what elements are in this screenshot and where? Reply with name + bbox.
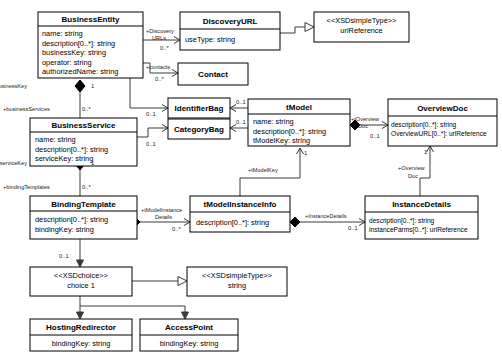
class-box-discovery-url[interactable]: DiscoveryURL useType: string	[180, 12, 280, 50]
class-attr: serviceKey: string	[35, 154, 93, 163]
class-box-url-reference[interactable]: <<XSDsimpleType>> urlReference	[314, 12, 409, 42]
class-box-category-bag[interactable]: CategoryBag	[168, 119, 230, 139]
edge-mult-service-key: 1	[91, 160, 94, 166]
class-box-business-entity[interactable]: BusinessEntity name: string description[…	[38, 12, 143, 78]
edge-be-composition-businessservice	[75, 80, 85, 118]
edge-be-identifierbag	[130, 78, 168, 112]
class-attr: bindingKey: string	[35, 225, 94, 234]
class-box-tmodel[interactable]: tModel name: string description[0..*]: s…	[248, 99, 350, 146]
edge-choice-accesspoint	[80, 306, 189, 319]
edge-mult-overview-doc: 1	[424, 149, 427, 155]
edge-mult-tm-categorybag: 0..1	[236, 119, 246, 125]
edge-tm-identifierbag	[230, 105, 248, 112]
class-title-discovery-url: DiscoveryURL	[203, 17, 258, 26]
edge-mult-bs-categorybag: 0..1	[146, 141, 156, 147]
class-attr: tModelKey: string	[253, 136, 310, 145]
edge-tm-categorybag	[230, 125, 248, 132]
class-title-url-reference: urlReference	[340, 26, 382, 35]
class-attr: description[0..*]: string	[253, 127, 326, 136]
class-title-hosting-redirector: HostingRedirector	[46, 323, 116, 332]
class-title-overview-doc: OverviewDoc	[417, 104, 468, 113]
edge-mult-discovery-urls: 0..*	[160, 45, 169, 51]
class-stereotype-xsd-choice: <<XSDchoice>>	[54, 271, 108, 280]
class-attr: businessKey: string	[42, 48, 106, 57]
class-title-business-service: BusinessService	[51, 121, 116, 130]
class-box-access-point[interactable]: AccessPoint bindingKey: string	[140, 319, 238, 351]
class-attr: description[0..*]: string	[35, 215, 108, 224]
edge-role-tmodel-key: +tModelKey	[248, 167, 278, 173]
class-attr: description[0..*]: string	[42, 39, 115, 48]
edge-mult-tmodel-key: 1	[304, 150, 307, 156]
edge-bindingtemplate-choice	[77, 239, 84, 267]
edge-choice-hostingredirector	[77, 296, 84, 319]
edge-mult-business-services: 0..*	[82, 106, 91, 112]
class-attr: authorizedName: string	[42, 67, 118, 76]
class-attr: name: string	[253, 117, 294, 126]
edge-mult-be-identifierbag: 0..1	[146, 111, 156, 117]
class-title-contact: Contact	[198, 70, 228, 79]
edge-role-discovery-urls-2: URLs	[152, 35, 166, 41]
class-title-business-entity: BusinessEntity	[62, 15, 120, 24]
edge-role-binding-templates: +bindingTemplates	[3, 184, 50, 190]
class-box-xsd-string[interactable]: <<XSDsimpleType>> string	[187, 267, 287, 296]
edge-mult-bt-choice: 0..1	[59, 253, 69, 259]
edge-mult-tm-identifierbag: 0..1	[236, 99, 246, 105]
edge-role-overview-doc: +Overview	[398, 165, 426, 171]
edge-mult-tmodel-instance-details: 0..*	[172, 226, 181, 232]
class-attr: description[0..*]: string	[369, 217, 435, 225]
class-box-contact[interactable]: Contact	[178, 63, 248, 85]
class-title-identifier-bag: IdentifierBag	[175, 104, 224, 113]
class-box-instance-details[interactable]: InstanceDetails description[0..*]: strin…	[365, 196, 478, 239]
class-attr: description[0..*]: string	[391, 121, 457, 129]
edge-role-service-key: +serviceKey	[0, 160, 27, 166]
class-box-identifier-bag[interactable]: IdentifierBag	[168, 98, 230, 118]
edge-mult-toverview-doc: 0..1	[370, 133, 380, 139]
class-attr: description[0..*]: string	[35, 145, 108, 154]
edge-mult-binding-templates: 0..*	[82, 184, 91, 190]
edge-bs-categorybag	[137, 125, 168, 138]
class-attr: operator: string	[42, 58, 92, 67]
edge-role-discovery-urls: +Discovery	[146, 28, 174, 34]
edge-role-business-services: +businessServices	[3, 106, 50, 112]
class-box-business-service[interactable]: BusinessService name: string description…	[30, 118, 137, 166]
edge-mult-business-key: 1	[91, 83, 94, 89]
class-box-xsd-choice[interactable]: <<XSDchoice>> choice 1	[30, 267, 132, 296]
edge-role-instance-details: +InstanceDetails	[305, 213, 347, 219]
edge-discoveryurl-urlreference	[280, 23, 314, 34]
class-box-tmodel-instance-info[interactable]: tModelInstanceInfo description[0..*]: st…	[190, 196, 290, 232]
class-title-tmodel: tModel	[286, 103, 312, 112]
edge-mult-instance-details: 0..1	[348, 225, 358, 231]
edge-mult-contacts: 0..*	[155, 76, 164, 82]
class-stereotype-url-reference: <<XSDsimpleType>>	[327, 16, 397, 25]
class-title-xsd-string: string	[228, 281, 246, 290]
edge-role-tmodel-instance-details-2: Details	[155, 214, 172, 220]
class-attr: OverviewURL[0..*]: urlReference	[391, 130, 487, 138]
class-attr: useType: string	[185, 35, 235, 44]
edge-role-toverview-doc: +tOverview	[351, 116, 380, 122]
class-box-overview-doc[interactable]: OverviewDoc description[0..*]: string Ov…	[388, 99, 497, 146]
uml-class-diagram: BusinessEntity name: string description[…	[0, 0, 502, 354]
class-attr: bindingKey: string	[160, 339, 219, 348]
class-title-instance-details: InstanceDetails	[392, 200, 451, 209]
edge-role-toverview-doc-2: Doc	[358, 123, 368, 129]
edge-role-business-key: +businessKey	[0, 83, 27, 89]
edge-role-tmodel-instance-details: +tModelInstance	[141, 207, 182, 213]
class-title-access-point: AccessPoint	[165, 323, 213, 332]
class-attr: bindingKey: string	[52, 339, 111, 348]
class-attr: name: string	[35, 135, 76, 144]
class-attr: description[0..*]: string	[196, 218, 269, 227]
class-attr: name: string	[42, 29, 83, 38]
class-title-xsd-choice: choice 1	[67, 281, 95, 290]
edge-choice-string	[132, 277, 187, 286]
diagram-canvas: BusinessEntity name: string description[…	[0, 0, 502, 354]
class-box-hosting-redirector[interactable]: HostingRedirector bindingKey: string	[30, 319, 132, 351]
class-box-binding-template[interactable]: BindingTemplate description[0..*]: strin…	[30, 196, 137, 239]
class-stereotype-xsd-string: <<XSDsimpleType>>	[202, 271, 272, 280]
class-attr: instanceParms[0..*]: urlReference	[369, 226, 468, 234]
edge-role-contacts: +contacts	[146, 64, 170, 70]
class-title-tmodel-instance-info: tModelInstanceInfo	[204, 200, 277, 209]
class-title-binding-template: BindingTemplate	[51, 200, 116, 209]
class-title-category-bag: CategoryBag	[174, 125, 224, 134]
edge-role-overview-doc-2: Doc	[408, 173, 418, 179]
